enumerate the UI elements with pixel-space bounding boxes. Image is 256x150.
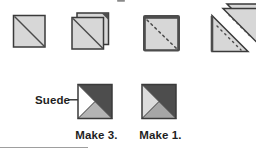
pieced-block-make-1	[142, 85, 176, 119]
step-square-marked	[14, 16, 46, 48]
step-squares-layered	[72, 13, 109, 49]
page-artifact-mark	[117, 0, 125, 2]
make-1-caption: Make 1.	[139, 129, 181, 141]
step-stitched-dashed-line	[143, 15, 180, 52]
make-3-caption: Make 3.	[75, 129, 117, 141]
step-cut-apart	[212, 4, 256, 52]
quilt-cutting-diagram: Suede Make 3. Make 1.	[0, 0, 256, 150]
pieced-block-make-3	[78, 85, 112, 119]
suede-label: Suede	[35, 94, 70, 106]
quilt-instruction-figure: Suede Make 3. Make 1.	[0, 0, 256, 150]
